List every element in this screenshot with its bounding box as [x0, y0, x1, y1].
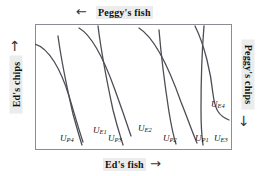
curve-label-subscript: P1 — [202, 136, 209, 143]
curve-label-ue2: UE2 — [138, 124, 152, 134]
curve-label-subscript: P2 — [170, 136, 177, 143]
curve-label-ue3: UE3 — [214, 134, 228, 144]
axis-label-peggys-chips: Peggy's chips — [242, 40, 255, 110]
indifference-curve-ue1 — [35, 44, 83, 142]
right-arrow-icon: → — [150, 157, 161, 170]
edgeworth-box-figure: ← Peggy's fish Ed's fish → ↑ Ed's chips … — [0, 0, 264, 176]
axis-label-eds-fish: Ed's fish — [103, 158, 146, 171]
curve-label-up3: UP3 — [108, 134, 122, 144]
curve-label-ue1: UE1 — [93, 126, 107, 136]
curve-label-subscript: E1 — [100, 128, 107, 135]
curve-label-subscript: E3 — [221, 136, 228, 143]
curve-label-subscript: E2 — [145, 126, 152, 133]
curve-label-subscript: E4 — [218, 102, 225, 109]
curve-label-up4: UP4 — [60, 134, 74, 144]
curve-label-up2: UP2 — [163, 134, 177, 144]
indifference-curves — [35, 24, 232, 150]
up-arrow-icon: ↑ — [9, 40, 21, 53]
indifference-curve-up2 — [159, 30, 176, 144]
indifference-curve-ue2 — [79, 28, 131, 136]
curve-label-up1: UP1 — [195, 134, 209, 144]
curve-label-subscript: P3 — [115, 136, 122, 143]
left-arrow-icon: ← — [76, 5, 87, 18]
indifference-curve-up1 — [201, 26, 204, 145]
curve-label-ue4: UE4 — [211, 100, 225, 110]
down-arrow-icon: ↓ — [238, 115, 250, 128]
curve-label-subscript: P4 — [67, 136, 74, 143]
axis-label-eds-chips: Ed's chips — [10, 56, 23, 114]
axis-label-peggys-fish: Peggy's fish — [96, 6, 153, 19]
